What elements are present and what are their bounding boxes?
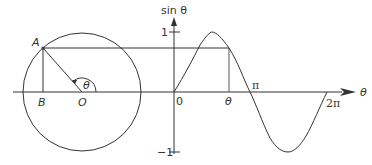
label-angle-theta: θ bbox=[83, 79, 90, 92]
label-B: B bbox=[38, 96, 46, 109]
radius-OA bbox=[43, 48, 82, 92]
x-tick-2pi: 2π bbox=[326, 97, 340, 110]
x-tick-pi: π bbox=[252, 79, 259, 92]
x-axis-label: θ bbox=[360, 86, 367, 99]
y-axis-label: sin θ bbox=[161, 4, 187, 17]
sin-axis-arrow-icon bbox=[171, 17, 177, 26]
y-tick-minus-1: −1 bbox=[157, 146, 173, 159]
point-A bbox=[42, 47, 45, 50]
theta-axis-arrow-icon bbox=[340, 88, 356, 96]
x-tick-theta: θ bbox=[225, 95, 232, 108]
y-tick-1: 1 bbox=[161, 26, 168, 39]
label-A: A bbox=[31, 36, 40, 49]
sine-circle-diagram: A B O θ sin θ 1 −1 0 θ π 2π θ bbox=[0, 0, 372, 165]
label-O: O bbox=[78, 96, 87, 109]
x-tick-0: 0 bbox=[176, 95, 183, 108]
